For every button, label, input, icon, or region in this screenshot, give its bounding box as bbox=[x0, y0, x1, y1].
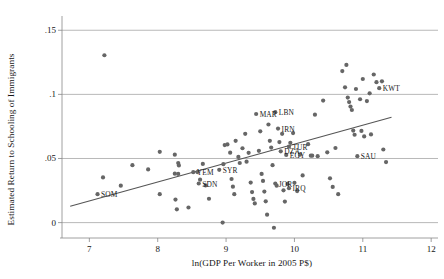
x-axis-label: ln(GDP Per Worker in 2005 P$) bbox=[62, 258, 442, 268]
data-point bbox=[343, 85, 347, 89]
data-point bbox=[362, 134, 366, 138]
x-tick-label: 9 bbox=[224, 244, 229, 254]
x-tick-label: 12 bbox=[427, 244, 436, 254]
scatter-plot-figure: Estimated Return to Schooling of Immigra… bbox=[0, 0, 444, 279]
data-point bbox=[158, 150, 162, 154]
data-point bbox=[353, 133, 357, 137]
point-label-jor: JOR bbox=[279, 179, 293, 188]
data-point bbox=[351, 128, 355, 132]
data-point bbox=[228, 151, 232, 155]
data-point bbox=[374, 80, 378, 84]
data-point bbox=[268, 139, 272, 143]
data-point bbox=[254, 112, 258, 116]
data-point bbox=[119, 184, 123, 188]
data-point bbox=[207, 197, 211, 201]
data-point bbox=[313, 113, 317, 117]
data-point bbox=[358, 97, 362, 101]
x-axis-tick-labels: 789101112 bbox=[0, 238, 444, 254]
data-point bbox=[249, 181, 253, 185]
data-point bbox=[346, 95, 350, 99]
data-point bbox=[221, 221, 225, 225]
point-label-sdn: SDN bbox=[202, 179, 217, 188]
data-point bbox=[234, 139, 238, 143]
data-point bbox=[266, 122, 270, 126]
data-point bbox=[359, 129, 363, 133]
data-point bbox=[236, 155, 240, 159]
data-point bbox=[253, 201, 257, 205]
data-point bbox=[301, 173, 305, 177]
data-point bbox=[217, 168, 221, 172]
data-point bbox=[381, 147, 385, 151]
x-tick-label: 10 bbox=[290, 244, 299, 254]
data-point bbox=[344, 63, 348, 67]
data-point bbox=[176, 172, 180, 176]
data-point bbox=[260, 172, 264, 176]
data-point bbox=[225, 142, 229, 146]
data-point bbox=[261, 179, 265, 183]
data-point bbox=[279, 149, 283, 153]
data-point bbox=[270, 163, 274, 167]
x-tick-label: 8 bbox=[155, 244, 160, 254]
data-point bbox=[325, 150, 329, 154]
point-label-som: SOM bbox=[101, 190, 117, 199]
data-point bbox=[283, 199, 287, 203]
data-point bbox=[272, 226, 276, 230]
data-point bbox=[191, 170, 195, 174]
point-label-mar: MAR bbox=[260, 109, 277, 118]
data-point bbox=[333, 146, 337, 150]
data-point bbox=[277, 140, 281, 144]
point-label-kwt: KWT bbox=[383, 84, 400, 93]
data-point bbox=[158, 192, 162, 196]
data-point bbox=[369, 132, 373, 136]
data-point bbox=[321, 98, 325, 102]
data-point bbox=[355, 154, 359, 158]
data-point bbox=[232, 192, 236, 196]
y-tick-label: .15 bbox=[45, 25, 56, 35]
data-point bbox=[146, 167, 150, 171]
data-point bbox=[365, 99, 369, 103]
data-point bbox=[244, 160, 248, 164]
y-tick-label: .1 bbox=[49, 89, 56, 99]
data-point bbox=[240, 146, 244, 150]
data-point bbox=[243, 132, 247, 136]
data-point bbox=[101, 175, 105, 179]
data-point bbox=[102, 53, 106, 57]
point-label-sau: SAU bbox=[361, 152, 376, 161]
data-point bbox=[276, 127, 280, 131]
point-label-irq: IRQ bbox=[292, 184, 305, 193]
data-point bbox=[262, 189, 266, 193]
point-label-egy: EGY bbox=[290, 150, 306, 159]
data-point bbox=[177, 163, 181, 167]
data-point bbox=[197, 181, 201, 185]
y-tick-label: 0 bbox=[52, 218, 57, 228]
point-label-yem: YEM bbox=[197, 168, 214, 177]
point-label-lbn: LBN bbox=[279, 108, 294, 117]
data-point bbox=[328, 176, 332, 180]
data-point bbox=[258, 129, 262, 133]
data-point bbox=[377, 86, 381, 90]
y-tick-label: .05 bbox=[45, 153, 56, 163]
data-point bbox=[173, 153, 177, 157]
data-point bbox=[368, 91, 372, 95]
data-point bbox=[347, 100, 351, 104]
data-point bbox=[310, 154, 314, 158]
data-point bbox=[316, 154, 320, 158]
data-point bbox=[264, 199, 268, 203]
data-point bbox=[251, 197, 255, 201]
regression-fit-line bbox=[70, 117, 391, 206]
data-point bbox=[372, 72, 376, 76]
data-point bbox=[340, 69, 344, 73]
point-label-irn: IRN bbox=[282, 124, 295, 133]
data-point bbox=[265, 213, 269, 217]
data-point bbox=[201, 162, 205, 166]
data-point bbox=[331, 185, 335, 189]
data-point bbox=[384, 160, 388, 164]
data-point bbox=[354, 87, 358, 91]
data-point bbox=[257, 149, 261, 153]
data-point bbox=[173, 197, 177, 201]
data-point bbox=[175, 207, 179, 211]
x-tick-label: 11 bbox=[358, 244, 367, 254]
data-point bbox=[186, 205, 190, 209]
data-point bbox=[250, 190, 254, 194]
data-point bbox=[229, 177, 233, 181]
